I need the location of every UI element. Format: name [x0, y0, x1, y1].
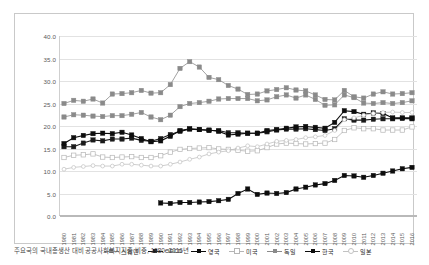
data-point: [323, 126, 327, 130]
data-point: [400, 111, 404, 115]
data-point: [274, 191, 278, 195]
data-point: [323, 103, 327, 107]
data-point: [168, 113, 172, 117]
data-point: [323, 97, 327, 101]
data-point: [100, 131, 104, 135]
data-point: [245, 187, 249, 191]
x-axis-tick-label: 1987: [129, 233, 135, 245]
data-point: [391, 110, 395, 114]
data-point: [197, 100, 201, 104]
data-point: [91, 164, 95, 168]
data-point: [139, 163, 143, 167]
data-point: [62, 101, 66, 105]
data-point: [149, 115, 153, 119]
data-point: [284, 86, 288, 90]
data-point: [352, 116, 356, 120]
data-point: [62, 115, 66, 119]
data-point: [303, 93, 307, 97]
data-point: [110, 137, 114, 141]
data-point: [187, 127, 191, 131]
data-point: [400, 91, 404, 95]
data-point: [197, 65, 201, 69]
data-point: [381, 128, 385, 132]
data-point: [81, 99, 85, 103]
x-axis-tick-label: 2002: [274, 233, 280, 245]
data-point: [361, 127, 365, 131]
data-point: [352, 109, 356, 113]
data-point: [275, 139, 279, 143]
data-point: [313, 125, 317, 129]
data-point: [168, 162, 172, 166]
data-point: [342, 93, 346, 97]
data-point: [71, 98, 75, 102]
x-axis-labels: 1980198119821983198419851986198719881989…: [59, 217, 417, 245]
x-axis-tick-label: 1998: [235, 233, 241, 245]
data-point: [62, 141, 66, 145]
data-point: [187, 59, 191, 63]
data-point: [71, 145, 75, 149]
x-axis-tick-label: 2000: [254, 233, 260, 245]
data-point: [274, 127, 278, 131]
data-point: [284, 126, 288, 130]
data-point: [120, 155, 124, 159]
data-point: [91, 131, 95, 135]
data-point: [255, 145, 259, 149]
y-axis-labels: 0.05.010.015.020.025.030.035.040.0: [15, 36, 56, 216]
data-point: [352, 95, 356, 99]
y-axis-tick-label: 0.0: [16, 213, 56, 220]
data-point: [168, 134, 172, 138]
data-point: [410, 165, 414, 169]
data-point: [236, 191, 240, 195]
data-point: [332, 103, 336, 107]
data-point: [158, 139, 162, 143]
data-point: [129, 154, 133, 158]
data-point: [226, 83, 230, 87]
x-axis-tick-label: 1981: [71, 233, 77, 245]
data-point: [110, 131, 114, 135]
data-point: [168, 201, 172, 205]
data-point: [197, 200, 201, 204]
x-axis-tick-label: 2009: [341, 233, 347, 245]
data-point: [149, 164, 153, 168]
data-point: [245, 92, 249, 96]
data-point: [217, 150, 221, 154]
data-point: [390, 128, 394, 132]
x-axis-tick-label: 2001: [264, 233, 270, 245]
data-point: [361, 175, 365, 179]
data-point: [129, 133, 133, 137]
data-point: [100, 101, 104, 105]
data-point: [255, 131, 259, 135]
data-point: [110, 155, 114, 159]
x-axis-tick-label: 1997: [225, 233, 231, 245]
x-axis-tick-label: 1989: [148, 233, 154, 245]
x-axis-tick-label: 1996: [216, 233, 222, 245]
data-point: [245, 149, 249, 153]
y-axis-tick-label: 40.0: [16, 33, 56, 40]
data-point: [207, 152, 211, 156]
data-point: [371, 117, 375, 121]
data-point: [120, 113, 124, 117]
data-point: [101, 164, 105, 168]
data-point: [178, 66, 182, 70]
x-axis-tick-label: 1983: [90, 233, 96, 245]
data-point: [81, 153, 85, 157]
data-point: [400, 128, 404, 132]
data-point: [342, 118, 346, 122]
data-point: [294, 96, 298, 100]
data-point: [129, 112, 133, 116]
data-point: [304, 136, 308, 140]
data-point: [390, 116, 394, 120]
data-point: [400, 100, 404, 104]
data-point: [410, 99, 414, 103]
data-point: [284, 139, 288, 143]
x-axis-tick-label: 1992: [177, 233, 183, 245]
data-point: [216, 129, 220, 133]
data-point: [100, 139, 104, 143]
data-point: [81, 133, 85, 137]
data-point: [400, 116, 404, 120]
data-point: [158, 201, 162, 205]
data-point: [110, 164, 114, 168]
x-axis-tick-label: 1995: [206, 233, 212, 245]
data-point: [265, 128, 269, 132]
data-point: [246, 144, 250, 148]
